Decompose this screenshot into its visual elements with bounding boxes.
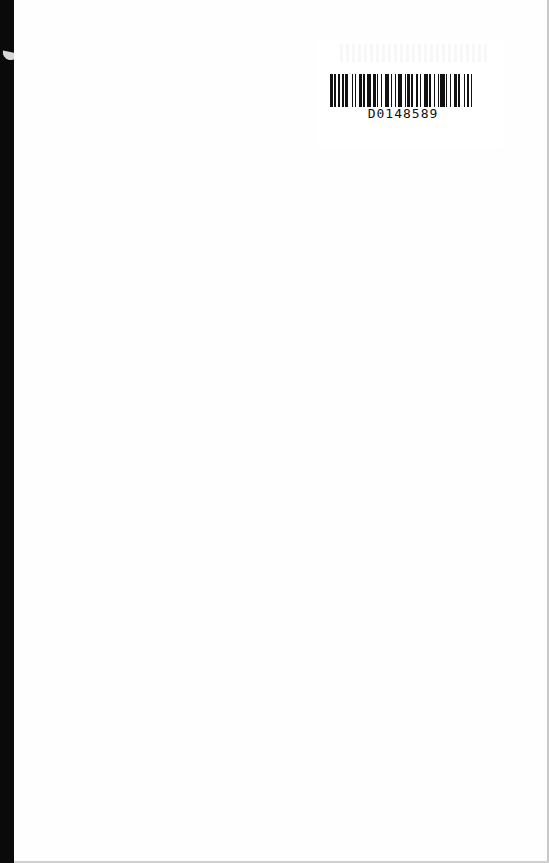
barcode-icon <box>330 74 476 107</box>
book-spine-edge <box>0 0 14 863</box>
barcode-number: D0148589 <box>330 106 476 121</box>
bleed-through-text <box>340 44 490 62</box>
